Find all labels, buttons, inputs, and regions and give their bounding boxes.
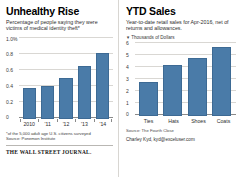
divider [6,145,113,146]
bar [139,82,158,116]
bar-slot [161,42,186,116]
left-chart-title: Unhealthy Rise [6,6,113,17]
y-tick-label: 0 [126,111,134,117]
left-chart-source: Source: Ponemon Institute [6,136,113,141]
bar-slot [94,37,112,119]
x-tick-label: Coats [211,118,236,124]
bar-slot [136,42,161,116]
x-tick-label: '12 [57,121,75,127]
y-tick-label: 0.2 [6,99,18,105]
left-chart-footnotes: *of the 5,000 adult age U.S. citizens su… [6,131,113,141]
right-chart-plot: 6 5 4 3 2 1 0 [126,42,236,116]
left-chart-subtitle: Percentage of people saying they were vi… [6,19,113,32]
bar-slot [75,37,93,119]
left-chart-x-axis: 2010 '11 '12 '13 '14 [20,121,112,127]
bar [212,47,231,115]
bar [163,65,182,115]
bar [23,88,36,119]
axis-note-label: Thousands of Dollars [131,35,174,40]
left-chart-plot: 1.0% 0.8 0.6 0.4 0.2 0 [6,37,113,119]
y-tick-label: 6 [126,40,134,46]
bar [96,53,109,119]
y-tick-label: 3 [126,76,134,82]
right-chart-x-axis: Ties Hats Shoes Coats [136,118,236,124]
right-chart-title: YTD Sales [126,6,238,17]
panel-ytd-sales: YTD Sales Year-to-date retail sales for … [119,0,243,177]
y-tick-label: 2 [126,88,134,94]
bar [41,86,54,119]
y-tick-label: 0.4 [6,83,18,89]
right-chart-byline: Charley Kyd, kyd@exceluser.com [126,137,238,143]
x-tick-label: Shoes [186,118,211,124]
x-tick-label: Hats [161,118,186,124]
y-tick-label: 4 [126,64,134,70]
y-tick-label: 1.0% [6,36,18,42]
right-chart-source: Source: The Fourth Close [126,128,238,133]
right-chart-bars [136,42,234,116]
x-tick-label: '13 [75,121,93,127]
x-tick-label: Ties [136,118,161,124]
screenshot-root: Unhealthy Rise Percentage of people sayi… [0,0,243,177]
right-chart-axis-note: ▼Thousands of Dollars [126,35,238,40]
y-tick-label: 5 [126,52,134,58]
bar [59,78,72,119]
bar [188,58,207,116]
right-chart-subtitle: Year-to-date retail sales for Apr-2016, … [126,19,234,32]
x-tick-label: '11 [38,121,56,127]
bar [78,66,91,118]
bar-slot [57,37,75,119]
bar-slot [38,37,56,119]
y-tick-label: 0.6 [6,67,18,73]
left-chart-bars [20,37,112,119]
x-tick-label: '14 [94,121,112,127]
bar-slot [185,42,210,116]
y-tick-label: 0 [6,114,18,120]
panel-unhealthy-rise: Unhealthy Rise Percentage of people sayi… [0,0,119,177]
y-tick-label: 1 [126,100,134,106]
x-tick-label: 2010 [20,121,38,127]
wsj-brand: THE WALL STREET JOURNAL. [6,149,113,155]
bar-slot [210,42,235,116]
y-tick-label: 0.8 [6,51,18,57]
bar-slot [20,37,38,119]
